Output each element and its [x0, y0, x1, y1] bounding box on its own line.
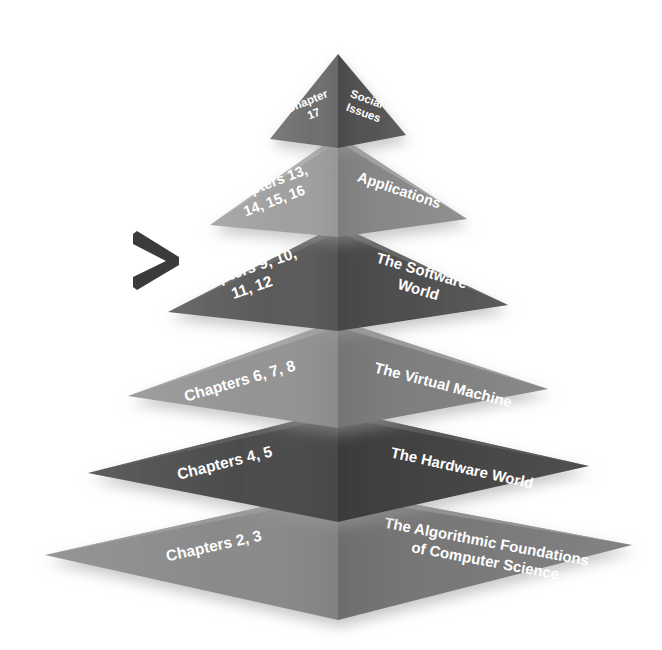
pyramid-diagram-canvas: Chapters 2, 3 The Algorithmic Foundation… [0, 0, 662, 650]
chevron-right-marker-icon [133, 231, 179, 290]
pyramid-graphic: Chapters 2, 3 The Algorithmic Foundation… [0, 0, 662, 650]
pyramid-level-4[interactable] [128, 320, 548, 428]
